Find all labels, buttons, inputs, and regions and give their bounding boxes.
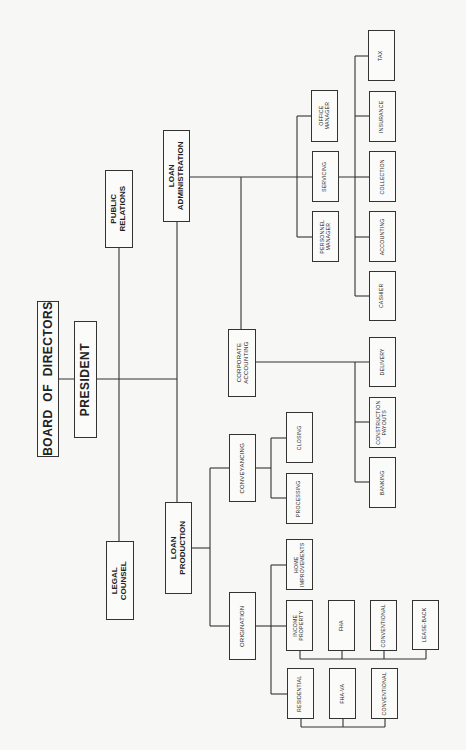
lease-back-box: LEASE-BACK bbox=[412, 600, 439, 650]
construction-payouts-label: CONSTRUCTION PAYOUTS bbox=[377, 400, 388, 444]
servicing-box: SERVICING bbox=[312, 151, 339, 202]
closing-box: CLOSING bbox=[286, 412, 313, 463]
processing-label: PROCESSING bbox=[297, 480, 303, 517]
president-box: PRESIDENT bbox=[74, 321, 97, 438]
delivery-box: DELIVERY bbox=[369, 337, 396, 387]
fha-va-box: FHA-VA bbox=[329, 668, 356, 719]
residential-label: RESIDENTIAL bbox=[298, 675, 304, 711]
accounting-box: ACCOUNTING bbox=[369, 211, 396, 262]
conventional-residential-label: CONVENTIONAL bbox=[382, 672, 388, 715]
conventional-income-box: CONVENTIONAL bbox=[370, 600, 397, 651]
president-label: PRESIDENT bbox=[79, 343, 92, 416]
insurance-box: INSURANCE bbox=[369, 91, 396, 142]
public-relations-box: PUBLIC RELATIONS bbox=[105, 170, 133, 248]
legal-counsel-box: LEGAL COUNSEL bbox=[106, 541, 134, 620]
servicing-label: SERVICING bbox=[323, 161, 329, 191]
loan-production-label: LOAN PRODUCTION bbox=[170, 521, 188, 575]
loan-administration-box: LOAN ADMINISTRATION bbox=[163, 130, 190, 222]
conventional-income-label: CONVENTIONAL bbox=[381, 604, 387, 647]
delivery-label: DELIVERY bbox=[380, 348, 386, 375]
public-relations-label: PUBLIC RELATIONS bbox=[110, 186, 128, 232]
corporate-accounting-label: CORPORATE ACCOUNTING bbox=[235, 342, 248, 384]
banking-label: BANKING bbox=[380, 470, 386, 495]
conventional-residential-box: CONVENTIONAL bbox=[371, 668, 398, 719]
conveyancing-label: CONVEYANCING bbox=[239, 443, 246, 494]
fha-box: FHA bbox=[328, 600, 355, 651]
cashier-box: CASHIER bbox=[369, 271, 396, 321]
fha-va-label: FHA-VA bbox=[340, 684, 346, 704]
loan-administration-label: LOAN ADMINISTRATION bbox=[168, 142, 186, 211]
board-of-directors-box: BOARD OF DIRECTORS bbox=[37, 301, 59, 457]
residential-box: RESIDENTIAL bbox=[287, 668, 314, 719]
loan-production-box: LOAN PRODUCTION bbox=[165, 502, 192, 594]
personnel-manager-box: PERSONNEL MANAGER bbox=[312, 211, 339, 262]
conveyancing-box: CONVEYANCING bbox=[229, 434, 256, 502]
income-property-label: INCOME PROPERTY bbox=[294, 610, 305, 640]
construction-payouts-box: CONSTRUCTION PAYOUTS bbox=[369, 397, 396, 448]
tax-label: TAX bbox=[379, 50, 385, 60]
accounting-label: ACCOUNTING bbox=[380, 218, 386, 255]
fha-label: FHA bbox=[339, 620, 345, 631]
collection-label: COLLECTION bbox=[380, 159, 386, 194]
corporate-accounting-box: CORPORATE ACCOUNTING bbox=[228, 329, 256, 397]
closing-label: CLOSING bbox=[297, 425, 303, 450]
banking-box: BANKING bbox=[369, 457, 396, 508]
collection-box: COLLECTION bbox=[369, 151, 396, 202]
income-property-box: INCOME PROPERTY bbox=[286, 600, 313, 651]
board-label: BOARD OF DIRECTORS bbox=[41, 302, 54, 456]
personnel-manager-label: PERSONNEL MANAGER bbox=[320, 220, 331, 254]
origination-label: ORIGINATION bbox=[239, 605, 246, 646]
office-manager-box: OFFICE MANAGER bbox=[311, 90, 338, 142]
legal-counsel-label: LEGAL COUNSEL bbox=[111, 561, 129, 600]
lease-back-label: LEASE-BACK bbox=[423, 608, 429, 643]
tax-box: TAX bbox=[368, 30, 395, 81]
cashier-label: CASHIER bbox=[380, 284, 386, 308]
home-improvements-box: HOME IMPROVEMENTS bbox=[286, 539, 313, 590]
origination-box: ORIGINATION bbox=[229, 592, 256, 660]
home-improvements-label: HOME IMPROVEMENTS bbox=[294, 542, 305, 586]
insurance-label: INSURANCE bbox=[380, 100, 386, 132]
office-manager-label: OFFICE MANAGER bbox=[319, 102, 330, 130]
processing-box: PROCESSING bbox=[286, 473, 313, 524]
